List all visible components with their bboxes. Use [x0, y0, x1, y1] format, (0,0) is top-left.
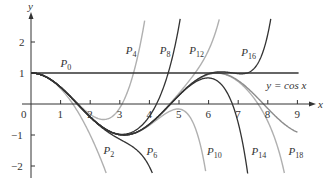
x-axis-arrow-icon: [309, 102, 316, 107]
label-p14: P14: [251, 145, 267, 160]
curve-p2: [31, 73, 106, 173]
x-tick-label: 9: [294, 108, 300, 120]
x-tick-label: 7: [235, 108, 241, 120]
x-tick-label: 5: [176, 108, 182, 120]
label-p8: P8: [159, 44, 171, 59]
x-tick-label: 3: [117, 108, 123, 120]
label-p18: P18: [288, 145, 304, 160]
label-p12: P12: [188, 44, 204, 59]
y-tick-label: 2: [19, 36, 25, 48]
x-tick-label: 1: [58, 108, 64, 120]
label-p10: P10: [206, 145, 222, 160]
y-tick-label: −2: [11, 160, 23, 172]
x-axis-label: x: [317, 98, 323, 110]
label-p0: P0: [60, 57, 72, 72]
taylor-polynomials-chart: x y 0 12345678921−1−2 P0P2P4P6P8P10P12P1…: [0, 0, 328, 188]
label-p6: P6: [145, 145, 157, 160]
label-p16: P16: [240, 46, 256, 61]
label-p2: P2: [103, 144, 115, 159]
y-axis-label: y: [27, 0, 33, 12]
curve-p10: [31, 73, 206, 171]
x-tick-label: 4: [146, 108, 152, 120]
x-tick-label: 2: [87, 108, 93, 120]
y-tick-label: −1: [11, 129, 23, 141]
origin-label: 0: [21, 108, 27, 120]
curve-p18: [31, 73, 284, 173]
curve-labels-group: P0P2P4P6P8P10P12P14P16P18y = cos x: [60, 44, 307, 160]
cos-label: y = cos x: [265, 79, 306, 91]
x-tick-label: 6: [206, 108, 212, 120]
curve-p6: [31, 73, 152, 173]
y-axis-arrow-icon: [29, 12, 34, 19]
x-tick-label: 8: [265, 108, 271, 120]
curve-p4: [31, 21, 145, 120]
y-tick-label: 1: [19, 67, 25, 79]
label-p4: P4: [125, 44, 137, 59]
